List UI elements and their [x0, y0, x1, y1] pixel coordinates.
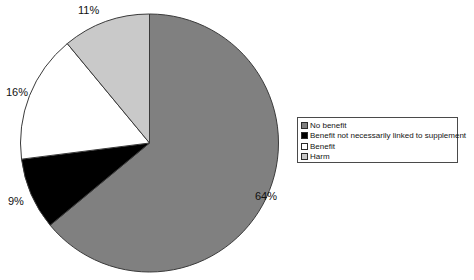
- legend-item-no-benefit[interactable]: No benefit: [300, 120, 455, 131]
- pie-label-no-benefit: 64%: [255, 190, 277, 202]
- legend-item-harm[interactable]: Harm: [300, 152, 455, 163]
- legend-swatch-fill-no-benefit: [302, 123, 307, 128]
- legend-label-benefit-not-necessarily-linked: Benefit not necessarily linked to supple…: [310, 131, 466, 140]
- legend-swatch-harm: [301, 153, 308, 160]
- legend-swatch-benefit: [301, 143, 308, 150]
- legend-item-benefit-not-necessarily-linked[interactable]: Benefit not necessarily linked to supple…: [300, 131, 455, 142]
- legend-label-harm: Harm: [310, 152, 330, 161]
- legend-label-benefit: Benefit: [310, 142, 335, 151]
- pie-label-benefit-not-necessarily-linked: 9%: [8, 195, 24, 207]
- legend-label-no-benefit: No benefit: [310, 121, 346, 130]
- legend-item-benefit[interactable]: Benefit: [300, 141, 455, 152]
- pie-label-harm: 11%: [78, 4, 99, 16]
- chart-legend: No benefit Benefit not necessarily linke…: [297, 117, 458, 163]
- pie-label-benefit: 16%: [6, 86, 28, 98]
- legend-swatch-no-benefit: [301, 122, 308, 129]
- pie-chart-figure: 11% 16% 9% 64% No benefit Benefit not ne…: [0, 0, 474, 280]
- legend-swatch-fill-benefit: [302, 144, 307, 149]
- legend-swatch-fill-harm: [302, 154, 307, 159]
- legend-swatch-benefit-not-necessarily-linked: [301, 132, 308, 139]
- legend-swatch-fill-benefit-not-necessarily-linked: [302, 133, 307, 138]
